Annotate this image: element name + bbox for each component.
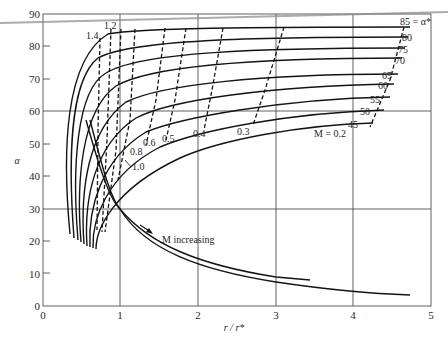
alpha-star-curves	[66, 27, 410, 249]
svg-text:55: 55	[370, 94, 380, 105]
svg-text:80: 80	[29, 40, 41, 52]
svg-text:50: 50	[29, 138, 41, 150]
svg-text:0.8: 0.8	[130, 146, 143, 157]
curve-65	[83, 74, 398, 244]
svg-text:90: 90	[29, 8, 41, 20]
x-axis-label: r / r*	[224, 322, 245, 333]
svg-text:10: 10	[29, 268, 41, 280]
svg-text:75: 75	[398, 44, 408, 55]
x-tick-labels: 0 1 2 3 4 5	[40, 309, 434, 321]
svg-text:M = 0.2: M = 0.2	[314, 128, 346, 139]
svg-text:3: 3	[273, 309, 279, 321]
svg-text:85 = α*: 85 = α*	[400, 16, 431, 27]
alpha-star-labels: 85 = α* 80 75 70 65 60 55 50 45	[348, 16, 431, 130]
svg-text:50: 50	[360, 106, 370, 117]
svg-text:4: 4	[350, 309, 356, 321]
svg-text:1.2: 1.2	[104, 20, 117, 31]
svg-text:70: 70	[395, 55, 405, 66]
svg-text:80: 80	[402, 32, 412, 43]
svg-text:45: 45	[348, 119, 358, 130]
svg-text:1.0: 1.0	[132, 161, 145, 172]
chart: 0 10 20 30 40 50 60 70 80 90 0 1 2 3 4 5…	[0, 0, 448, 338]
svg-text:60: 60	[29, 105, 41, 117]
svg-text:30: 30	[29, 203, 41, 215]
mach-1.2	[102, 29, 111, 232]
svg-text:5: 5	[428, 309, 434, 321]
svg-text:0.5: 0.5	[162, 133, 175, 144]
y-axis-label: α	[14, 155, 20, 166]
svg-text:0.4: 0.4	[193, 128, 206, 139]
leader-line-1.0	[125, 160, 131, 167]
svg-text:40: 40	[29, 170, 41, 182]
y-tick-labels: 0 10 20 30 40 50 60 70 80 90	[29, 8, 41, 312]
svg-text:60: 60	[378, 80, 388, 91]
mach-0.3	[253, 27, 284, 125]
svg-text:M increasing: M increasing	[162, 234, 215, 245]
svg-text:70: 70	[29, 73, 41, 85]
svg-text:2: 2	[195, 309, 201, 321]
svg-text:0.3: 0.3	[237, 126, 250, 137]
curve-75	[76, 48, 405, 240]
m-increasing-annotation: M increasing	[140, 225, 215, 245]
svg-text:0: 0	[40, 309, 46, 321]
curve-80	[71, 37, 408, 238]
svg-text:1.4: 1.4	[86, 30, 99, 41]
svg-text:0.6: 0.6	[143, 137, 156, 148]
svg-text:20: 20	[29, 235, 41, 247]
svg-text:1: 1	[117, 309, 123, 321]
